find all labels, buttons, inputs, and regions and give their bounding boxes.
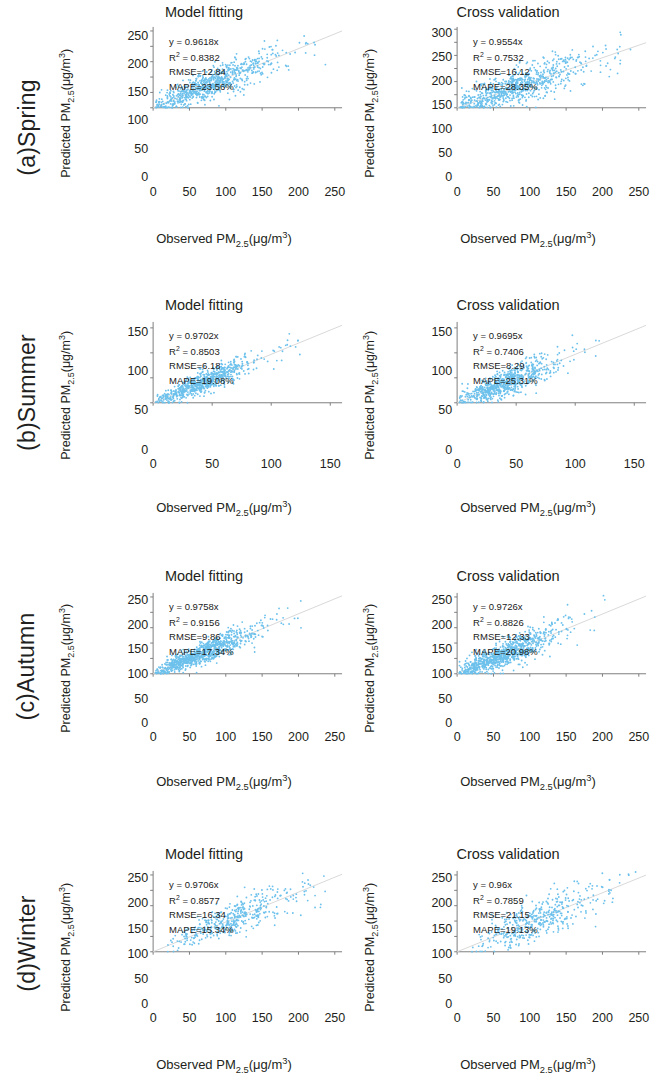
row-label-summer: (b)Summer [0,255,54,530]
x-tick-label: 50 [169,185,209,199]
y-tick-label: 100 [431,122,452,136]
y-axis-title: Predicted PM2.5(μg/m3) [56,24,76,203]
panel-autumn-cross-validation: Cross validationPredicted PM2.5(μg/m3)Ob… [358,530,658,802]
x-tick-label: 0 [133,457,173,471]
x-axis-title: Observed PM2.5(μg/m3) [398,1056,658,1075]
plot-area: 050100150200250050100150200250y = 0.96xR… [424,868,650,1027]
pm25-validation-figure: (a)Spring Model fittingPredicted PM2.5(μ… [0,0,659,1085]
panel-title: Cross validation [358,846,658,862]
x-tick-label: 100 [510,185,550,199]
x-axis-title: Observed PM2.5(μg/m3) [94,499,354,518]
x-tick-label: 150 [242,1011,282,1025]
panel-spring-cross-validation: Cross validationPredicted PM2.5(μg/m3)Ob… [358,0,658,255]
x-tick-label: 50 [473,730,513,744]
x-tick-label: 50 [169,730,209,744]
x-tick-label: 100 [206,730,246,744]
x-tick-label: 50 [192,457,232,471]
x-tick-label: 200 [582,185,622,199]
row-label-summer-text: (b)Summer [14,334,41,451]
x-tick-label: 200 [278,1011,318,1025]
y-axis-title: Predicted PM2.5(μg/m3) [360,590,380,746]
x-tick-label: 250 [315,730,355,744]
panel-autumn-model-fitting: Model fittingPredicted PM2.5(μg/m3)Obser… [54,530,354,802]
x-tick-label: 100 [206,185,246,199]
panel-spring-model-fitting: Model fittingPredicted PM2.5(μg/m3)Obser… [54,0,354,255]
x-axis-title: Observed PM2.5(μg/m3) [94,773,354,792]
y-axis-title: Predicted PM2.5(μg/m3) [56,868,76,1027]
x-axis-title: Observed PM2.5(μg/m3) [398,499,658,518]
y-tick-label: 0 [445,997,452,1011]
x-tick-label: 0 [437,1011,477,1025]
y-tick-label: 0 [445,170,452,184]
y-axis-title: Predicted PM2.5(μg/m3) [56,319,76,472]
plot-area: 050100150200250050100150200250y = 0.9726… [424,590,650,746]
x-tick-label: 0 [437,457,477,471]
x-tick-label: 150 [242,730,282,744]
x-tick-label: 150 [310,457,350,471]
plot-area: 050100150200250050100150200250y = 0.9618… [120,24,346,203]
y-tick-label: 0 [445,716,452,730]
y-axis-title: Predicted PM2.5(μg/m3) [360,24,380,203]
panel-title: Model fitting [54,297,354,313]
row-label-autumn: (c)Autumn [0,530,54,802]
x-axis-title: Observed PM2.5(μg/m3) [398,773,658,792]
x-axis-title: Observed PM2.5(μg/m3) [398,230,658,249]
x-tick-label: 150 [546,730,586,744]
x-axis-title: Observed PM2.5(μg/m3) [94,1056,354,1075]
y-tick-label: 50 [438,692,452,706]
row-label-autumn-text: (c)Autumn [14,612,41,720]
panel-title: Cross validation [358,568,658,584]
x-tick-label: 250 [315,1011,355,1025]
panel-title: Cross validation [358,297,658,313]
panel-winter-model-fitting: Model fittingPredicted PM2.5(μg/m3)Obser… [54,802,354,1085]
plot-area: 050100150200250050100150200250y = 0.9706… [120,868,346,1027]
y-tick-label: 50 [134,142,148,156]
x-tick-label: 0 [133,730,173,744]
y-axis-title: Predicted PM2.5(μg/m3) [360,319,380,472]
panel-title: Cross validation [358,4,658,20]
x-tick-label: 50 [496,457,536,471]
x-tick-label: 200 [278,730,318,744]
row-label-winter: (d)Winter [0,802,54,1085]
panel-title: Model fitting [54,568,354,584]
x-tick-label: 150 [614,457,654,471]
y-tick-label: 50 [134,692,148,706]
y-tick-label: 0 [141,997,148,1011]
y-tick-label: 0 [445,443,452,457]
panel-summer-model-fitting: Model fittingPredicted PM2.5(μg/m3)Obser… [54,255,354,530]
x-tick-label: 100 [251,457,291,471]
y-axis-title: Predicted PM2.5(μg/m3) [360,868,380,1027]
x-tick-label: 250 [619,185,659,199]
figure-row-autumn: (c)Autumn Model fittingPredicted PM2.5(μ… [0,530,659,802]
y-tick-label: 50 [438,146,452,160]
x-tick-label: 200 [582,1011,622,1025]
x-tick-label: 250 [619,1011,659,1025]
x-tick-label: 250 [619,730,659,744]
x-tick-label: 0 [437,730,477,744]
x-tick-label: 100 [555,457,595,471]
y-tick-label: 50 [438,972,452,986]
x-tick-label: 250 [315,185,355,199]
x-tick-label: 50 [473,185,513,199]
figure-row-winter: (d)Winter Model fittingPredicted PM2.5(μ… [0,802,659,1085]
x-tick-label: 100 [510,730,550,744]
x-tick-label: 150 [242,185,282,199]
figure-row-spring: (a)Spring Model fittingPredicted PM2.5(μ… [0,0,659,255]
y-tick-label: 50 [134,972,148,986]
panel-title: Model fitting [54,846,354,862]
row-label-spring: (a)Spring [0,0,54,255]
x-tick-label: 50 [473,1011,513,1025]
x-tick-label: 200 [582,730,622,744]
panel-winter-cross-validation: Cross validationPredicted PM2.5(μg/m3)Ob… [358,802,658,1085]
figure-row-summer: (b)Summer Model fittingPredicted PM2.5(μ… [0,255,659,530]
x-tick-label: 100 [510,1011,550,1025]
x-tick-label: 50 [169,1011,209,1025]
y-tick-label: 0 [141,443,148,457]
x-tick-label: 100 [206,1011,246,1025]
y-tick-label: 0 [141,170,148,184]
plot-area: 050100150200250050100150200250y = 0.9758… [120,590,346,746]
x-tick-label: 0 [437,185,477,199]
row-label-spring-text: (a)Spring [14,79,41,175]
row-label-winter-text: (d)Winter [14,895,41,991]
panel-title: Model fitting [54,4,354,20]
